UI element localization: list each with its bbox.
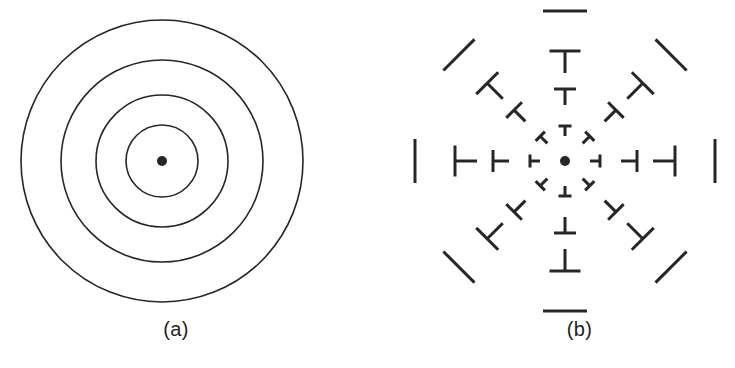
tick-mark-ring1-spoke45 [583,132,595,144]
panel-a-caption: (a) [0,318,360,340]
tick-stem [540,136,547,143]
tick-stem [583,136,590,143]
tick-mark-ring2-spoke45 [605,102,624,121]
tick-stem [487,223,503,239]
spoke-270deg [543,186,587,311]
tick-mark-ring3-spoke135 [476,72,503,99]
tick-mark-ring4-spoke45 [656,39,687,70]
tick-mark-ring1-spoke225 [536,179,548,191]
tick-cap [443,252,474,283]
panel-b-caption: (b) [396,318,735,340]
tick-mark-ring4-spoke315 [656,252,687,283]
tick-stem [605,201,616,212]
tick-mark-ring1-spoke135 [536,132,548,144]
spoke-315deg [583,179,687,283]
tick-mark-ring2-spoke90 [554,89,576,105]
tick-mark-ring3-spoke90 [550,51,581,73]
tick-cap [443,39,474,70]
center-dot [157,156,167,166]
tick-mark-ring3-spoke0 [653,146,675,177]
tick-mark-ring3-spoke315 [627,223,654,250]
tick-mark-ring3-spoke180 [455,146,477,177]
tick-cap [656,39,687,70]
tick-stem [627,83,643,99]
tick-stem [627,223,643,239]
tick-mark-ring2-spoke225 [506,201,525,220]
spoke-225deg [443,179,547,283]
panel-b-radial-tick-pattern: (b) [368,0,735,368]
spoke-0deg [590,139,715,183]
tick-stem [487,83,503,99]
figure-root: (a) (b) [0,0,735,368]
tick-stem [514,201,525,212]
spoke-45deg [583,39,687,143]
tick-cap [656,252,687,283]
tick-mark-ring1-spoke315 [583,179,595,191]
panel-a-canvas [0,0,368,368]
panel-b-canvas [368,0,735,368]
tick-mark-ring2-spoke270 [554,217,576,233]
spoke-180deg [415,139,540,183]
spoke-135deg [443,39,547,143]
tick-mark-ring1-spoke0 [590,155,600,168]
tick-mark-ring2-spoke135 [506,102,525,121]
panel-a-concentric-circles: (a) [0,0,368,368]
tick-mark-ring1-spoke180 [530,155,540,168]
tick-mark-ring4-spoke225 [443,252,474,283]
tick-stem [583,179,590,186]
tick-stem [540,179,547,186]
tick-mark-ring3-spoke45 [627,72,654,99]
tick-mark-ring1-spoke270 [559,186,572,196]
tick-mark-ring4-spoke135 [443,39,474,70]
tick-stem [605,110,616,121]
tick-stem [514,110,525,121]
tick-mark-ring1-spoke90 [559,126,572,136]
tick-mark-ring3-spoke225 [476,223,503,250]
spoke-90deg [543,11,587,136]
center-dot [560,156,570,166]
tick-mark-ring2-spoke180 [493,150,509,172]
tick-mark-ring2-spoke0 [621,150,637,172]
tick-mark-ring2-spoke315 [605,201,624,220]
tick-mark-ring3-spoke270 [550,249,581,271]
